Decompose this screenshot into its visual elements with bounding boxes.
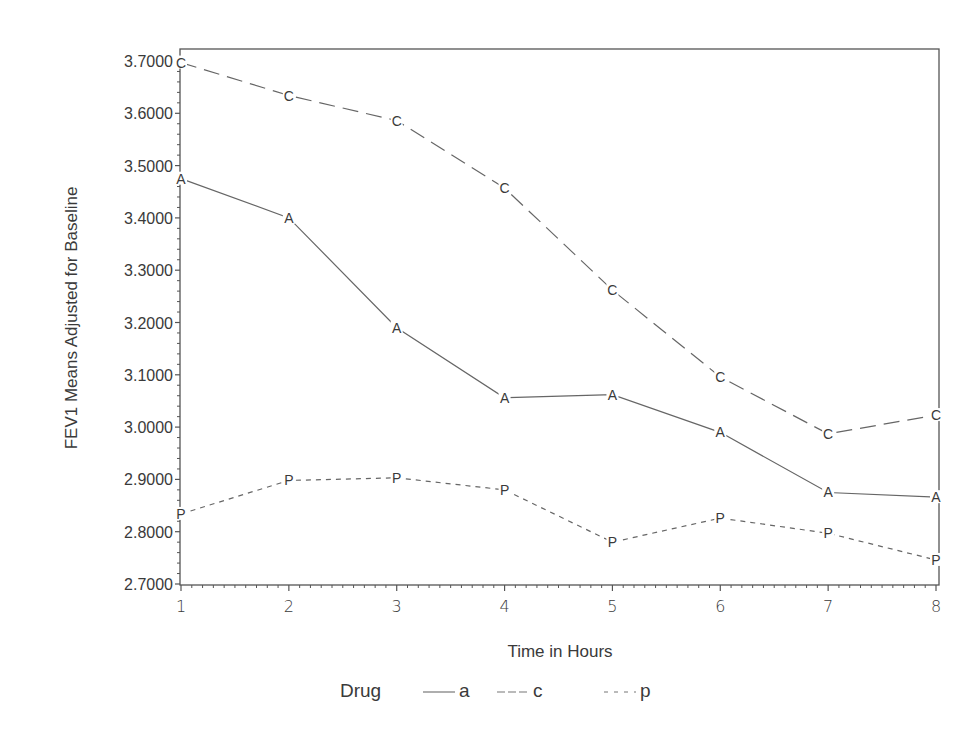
x-tick-label: 6 [715,597,725,616]
x-tick-label: 1 [176,597,186,616]
x-axis-title: Time in Hours [507,642,612,661]
data-point-c: C [176,55,186,71]
data-point-p: P [284,472,293,488]
y-tick-label: 3.7000 [124,53,173,70]
y-tick-label: 3.5000 [124,158,173,175]
series-c: CCCCCCCC [175,55,942,442]
data-point-a: A [392,320,402,336]
chart: 2.70002.80002.90003.00003.10003.20003.30… [0,0,980,731]
data-point-c: C [931,407,941,423]
y-tick-label: 2.9000 [124,471,173,488]
y-tick-label: 3.1000 [124,367,173,384]
data-point-a: A [931,489,941,505]
x-tick-label: 3 [392,597,402,616]
data-point-p: P [716,510,725,526]
x-tick-label: 2 [284,597,294,616]
legend-label-p: p [640,680,651,701]
data-point-c: C [715,369,725,385]
data-point-p: P [176,506,185,522]
data-point-c: C [500,180,510,196]
data-point-a: A [608,387,618,403]
y-tick-label: 3.2000 [124,315,173,332]
legend-label-c: c [533,680,543,701]
data-point-p: P [392,470,401,486]
y-tick-label: 3.3000 [124,262,173,279]
data-point-p: P [500,482,509,498]
series-line-c [181,63,936,434]
data-point-c: C [284,88,294,104]
x-tick-label: 7 [823,597,833,616]
data-point-p: P [608,534,617,550]
series-line-a [181,179,936,498]
plot-frame [180,49,939,585]
series-a: AAAAAAAA [175,171,942,506]
legend-label-a: a [459,680,470,701]
data-point-c: C [823,426,833,442]
y-axis-title: FEV1 Means Adjusted for Baseline [62,187,81,450]
legend: Drug acp [340,680,651,701]
y-tick-label: 2.7000 [124,576,173,593]
x-tick-label: 8 [931,597,941,616]
y-tick-label: 3.0000 [124,419,173,436]
y-tick-label: 2.8000 [124,524,173,541]
x-tick-label: 4 [499,597,509,616]
x-tick-label: 5 [607,597,617,616]
data-point-a: A [176,171,186,187]
data-point-a: A [716,424,726,440]
data-point-c: C [607,282,617,298]
data-point-p: P [931,552,940,568]
legend-title: Drug [340,680,381,701]
data-point-a: A [500,390,510,406]
y-tick-label: 3.4000 [124,210,173,227]
data-point-a: A [284,210,294,226]
data-point-c: C [392,113,402,129]
y-tick-label: 3.6000 [124,105,173,122]
data-point-p: P [823,525,832,541]
data-point-a: A [823,484,833,500]
